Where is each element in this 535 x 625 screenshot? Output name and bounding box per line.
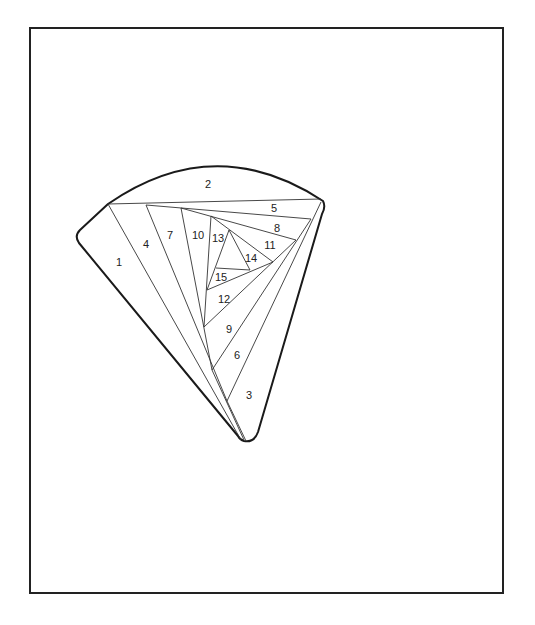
fold-line-5-8 [146, 205, 311, 219]
segment-labels: 1 2 3 4 5 6 7 8 9 10 11 12 13 14 15 [116, 178, 280, 401]
iris-folding-diagram: 1 2 3 4 5 6 7 8 9 10 11 12 13 14 15 [0, 0, 535, 625]
segment-label-5: 5 [271, 202, 277, 214]
segment-label-7: 7 [167, 229, 173, 241]
segment-label-12: 12 [218, 293, 230, 305]
page-border [30, 28, 503, 593]
fold-line-10-13 [204, 216, 211, 327]
segment-label-8: 8 [274, 222, 280, 234]
fold-line-2-5 [108, 199, 321, 204]
segment-label-1: 1 [116, 256, 122, 268]
segment-label-2: 2 [205, 178, 211, 190]
segment-label-15: 15 [215, 271, 227, 283]
segment-label-14: 14 [245, 252, 257, 264]
segment-label-11: 11 [264, 239, 275, 251]
segment-label-9: 9 [226, 323, 232, 335]
fold-line-14-15 [229, 230, 250, 270]
segment-label-6: 6 [234, 349, 240, 361]
segment-label-3: 3 [246, 389, 252, 401]
segment-label-4: 4 [143, 238, 149, 250]
wedge-outline [77, 166, 325, 441]
fold-line-15-top [216, 268, 250, 270]
segment-label-10: 10 [192, 229, 204, 241]
segment-label-13: 13 [212, 232, 224, 244]
fold-line-converge-b [212, 370, 244, 440]
